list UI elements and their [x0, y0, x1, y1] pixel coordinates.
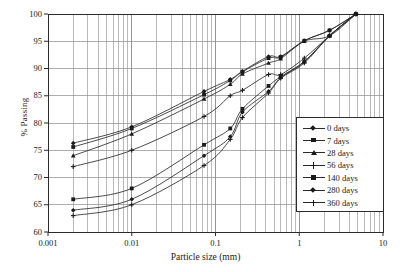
x-tick-0-1: 0.1	[186, 238, 246, 248]
y-tick-70: 70	[16, 172, 42, 182]
cross-marker-icon	[303, 160, 325, 170]
legend-label: 360 days	[325, 198, 358, 208]
legend-label: 0 days	[325, 123, 349, 133]
legend-label: 140 days	[325, 173, 358, 183]
diamond-marker-icon	[303, 123, 325, 133]
legend-item-360-days[interactable]: 360 days	[297, 196, 383, 208]
chart-legend: 0 days7 days28 days56 days140 days280 da…	[296, 117, 384, 212]
legend-label: 56 days	[325, 160, 354, 170]
legend-item-280-days[interactable]: 280 days	[297, 184, 383, 196]
y-tick-85: 85	[16, 90, 42, 100]
x-tick-1: 1	[269, 238, 329, 248]
x-tick-0-001: 0.001	[18, 238, 78, 248]
legend-item-56-days[interactable]: 56 days	[297, 159, 383, 171]
legend-label: 280 days	[325, 185, 358, 195]
legend-item-140-days[interactable]: 140 days	[297, 172, 383, 184]
legend-label: 7 days	[325, 136, 349, 146]
y-tick-100: 100	[16, 9, 42, 19]
y-tick-65: 65	[16, 199, 42, 209]
x-tick-10: 10	[353, 238, 411, 248]
square-marker-icon	[303, 173, 325, 183]
legend-item-0-days[interactable]: 0 days	[297, 122, 383, 134]
x-tick-0-01: 0.01	[102, 238, 162, 248]
diamond-marker-icon	[303, 185, 325, 195]
legend-item-7-days[interactable]: 7 days	[297, 134, 383, 146]
particle-size-distribution-chart: % Passing Particle size (mm) 10095908580…	[0, 0, 411, 272]
plus-marker-icon	[303, 198, 325, 208]
y-tick-60: 60	[16, 227, 42, 237]
y-tick-80: 80	[16, 118, 42, 128]
legend-item-28-days[interactable]: 28 days	[297, 147, 383, 159]
x-axis-title: Particle size (mm)	[0, 252, 411, 262]
y-tick-95: 95	[16, 36, 42, 46]
legend-label: 28 days	[325, 148, 354, 158]
triangle-marker-icon	[303, 148, 325, 158]
y-tick-90: 90	[16, 63, 42, 73]
y-tick-75: 75	[16, 145, 42, 155]
square-marker-icon	[303, 136, 325, 146]
